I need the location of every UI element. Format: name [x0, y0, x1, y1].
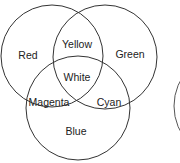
label-yellow: Yellow	[62, 38, 92, 50]
label-white: White	[64, 71, 91, 83]
label-red: Red	[18, 49, 37, 61]
red-circle	[1, 5, 103, 107]
label-green: Green	[115, 48, 144, 60]
label-blue: Blue	[65, 125, 86, 137]
label-cyan: Cyan	[97, 96, 122, 108]
label-magenta: Magenta	[29, 96, 70, 108]
partial-circle	[174, 52, 180, 160]
